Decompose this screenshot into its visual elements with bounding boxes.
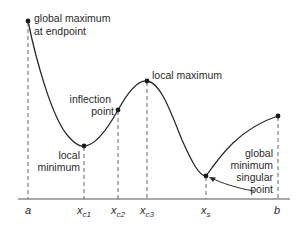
point-inflection xyxy=(116,108,121,113)
tick-xs: xs xyxy=(200,204,211,219)
extrema-diagram: global maximum at endpoint inflection po… xyxy=(0,0,302,228)
label-inflection-2: point xyxy=(91,105,114,117)
tick-xc1: xc1 xyxy=(76,204,91,219)
label-inflection-1: inflection xyxy=(70,93,112,105)
point-global-min xyxy=(204,174,209,179)
label-local-min-1: local xyxy=(58,149,80,161)
point-global-max xyxy=(26,19,31,24)
point-endpoint-b xyxy=(276,114,281,119)
label-global-min-3: singular xyxy=(236,171,273,183)
tick-xc3: xc3 xyxy=(139,204,155,219)
label-global-max-2: at endpoint xyxy=(34,25,86,37)
label-local-max: local maximum xyxy=(152,69,222,81)
label-global-min-1: global xyxy=(245,147,273,159)
tick-b: b xyxy=(274,204,280,216)
point-local-max xyxy=(145,79,150,84)
label-global-min-2: minimum xyxy=(230,159,273,171)
label-global-max-1: global maximum xyxy=(34,12,111,24)
tick-a: a xyxy=(25,204,31,216)
label-global-min-4: point xyxy=(250,183,273,195)
point-local-min xyxy=(82,144,87,149)
label-local-min-2: minimum xyxy=(37,161,80,173)
tick-xc2: xc2 xyxy=(110,204,126,219)
